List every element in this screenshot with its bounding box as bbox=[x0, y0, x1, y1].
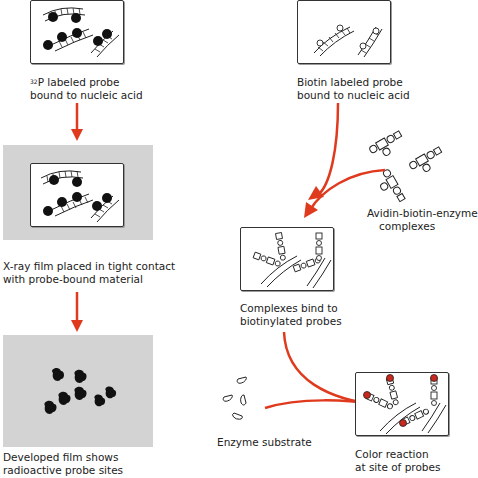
panel-color-reaction bbox=[355, 372, 449, 436]
label-color-reaction: Color reaction at site of probes bbox=[355, 448, 440, 474]
color-reaction-illustration bbox=[356, 373, 448, 435]
enzyme-substrate-icon bbox=[220, 375, 260, 425]
label-complexes-bind: Complexes bind to biotinylated probes bbox=[240, 302, 342, 328]
panel-complexes-bound bbox=[240, 227, 334, 291]
label-enzyme-substrate: Enzyme substrate bbox=[217, 436, 312, 449]
bound-complexes-illustration bbox=[241, 228, 333, 290]
